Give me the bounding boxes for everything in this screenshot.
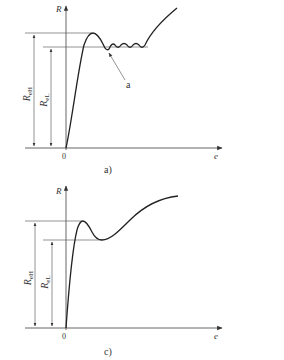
lower-yield-label-a: ReL	[38, 93, 51, 108]
figure-a: a R e 0 ReH ReL a)	[21, 4, 222, 176]
x-axis-label-c: e	[214, 331, 218, 341]
lower-yield-label-c: ReL	[39, 275, 52, 290]
stress-strain-curve-c	[66, 196, 178, 328]
origin-label-a: 0	[62, 152, 66, 161]
caption-c: c)	[104, 346, 112, 358]
caption-a: a)	[104, 164, 112, 176]
stress-strain-diagrams: a R e 0 ReH ReL a) R e 0 ReH R	[0, 0, 284, 360]
annotation-label-a: a	[126, 79, 131, 90]
svg-text:ReL: ReL	[39, 275, 52, 290]
y-axis-label-a: R	[55, 4, 62, 14]
svg-text:ReH: ReH	[22, 271, 35, 286]
annotation-pointer-a	[109, 53, 125, 80]
x-axis-label-a: e	[214, 151, 218, 161]
y-axis-label-c: R	[55, 186, 62, 196]
svg-text:ReL: ReL	[38, 93, 51, 108]
figure-c: R e 0 ReH ReL c)	[22, 186, 222, 358]
svg-text:ReH: ReH	[21, 87, 34, 102]
origin-label-c: 0	[62, 332, 66, 341]
stress-strain-curve-a	[66, 8, 177, 148]
upper-yield-label-c: ReH	[22, 271, 35, 286]
upper-yield-label-a: ReH	[21, 87, 34, 102]
